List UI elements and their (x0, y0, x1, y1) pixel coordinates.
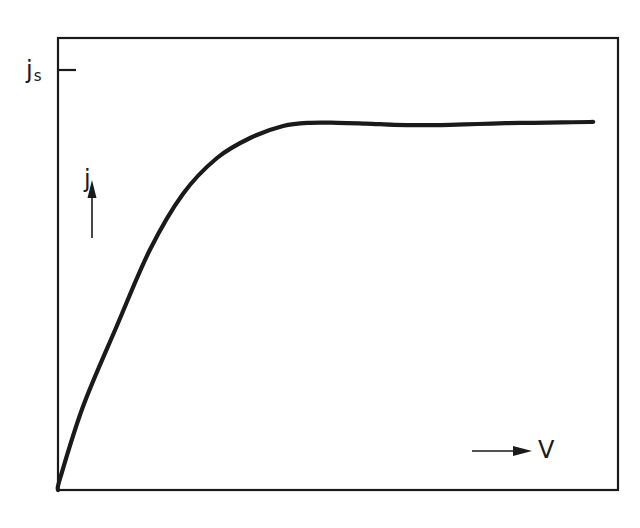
y-axis-label: j (84, 165, 91, 193)
js-subscript: s (34, 67, 42, 85)
saturation-current-label: js (26, 56, 42, 85)
current-voltage-curve (58, 122, 593, 490)
v-arrow-icon (472, 446, 532, 456)
js-main: j (26, 56, 33, 84)
x-axis-label: V (538, 436, 554, 464)
